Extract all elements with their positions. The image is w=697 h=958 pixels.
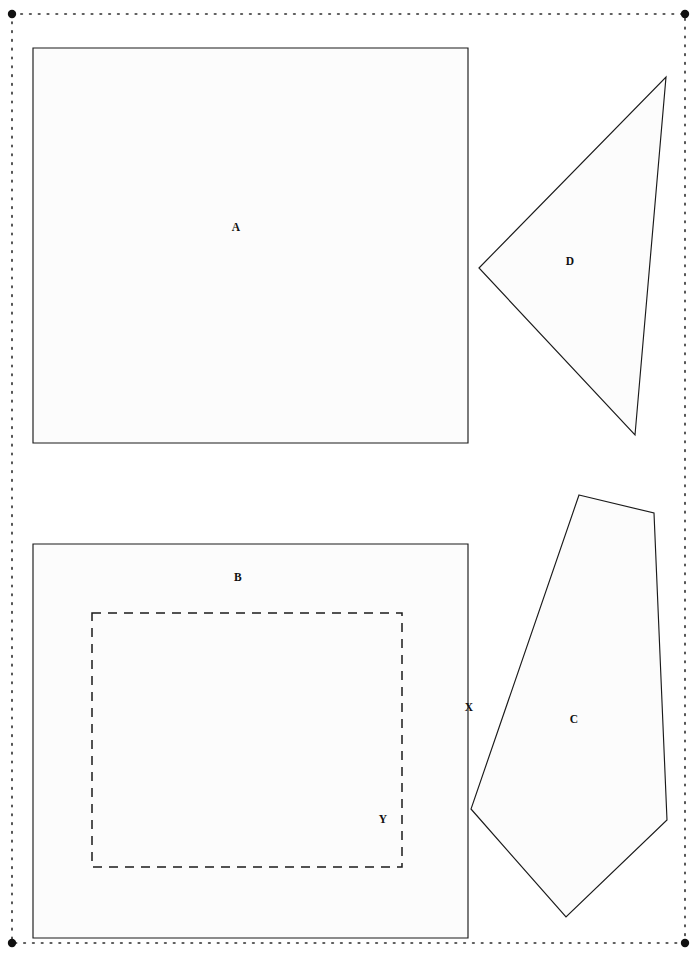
- shape-label-b: B: [234, 572, 242, 584]
- corner-dot-bottom-right: [681, 939, 689, 947]
- drawing-page: A B C D Y X: [0, 0, 697, 958]
- corner-dot-top-right: [681, 10, 689, 18]
- corner-dot-top-left: [8, 10, 16, 18]
- shape-label-y: Y: [379, 814, 388, 826]
- pentagon-c: [471, 495, 667, 917]
- corner-dot-bottom-left: [8, 939, 16, 947]
- edge-label-x: X: [465, 702, 474, 714]
- geometry-canvas: [0, 0, 697, 958]
- shape-label-d: D: [566, 256, 575, 268]
- rectangle-a: [33, 48, 468, 443]
- shape-label-a: A: [232, 222, 241, 234]
- shape-label-c: C: [570, 714, 579, 726]
